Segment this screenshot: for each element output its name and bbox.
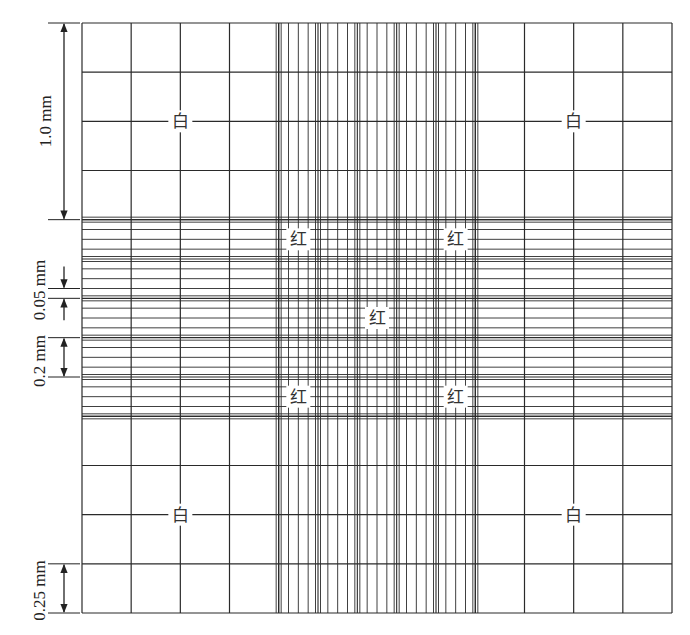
red-label-bottom-right: 红 bbox=[447, 387, 464, 407]
dimension-0.25mm-text: 0.25 mm bbox=[30, 560, 49, 620]
red-label-top-right: 红 bbox=[447, 229, 464, 249]
white-label-top-right: 白 bbox=[565, 111, 582, 131]
white-label-bottom-right: 白 bbox=[565, 505, 582, 525]
dimension-0.05mm-text: 0.05 mm bbox=[30, 260, 49, 320]
dimension-0.2mm-text: 0.2 mm bbox=[30, 335, 49, 387]
dimension-1mm-text: 1.0 mm bbox=[36, 95, 55, 147]
white-label-bottom-left: 白 bbox=[172, 505, 189, 525]
white-label-top-left: 白 bbox=[172, 111, 189, 131]
red-label-center: 红 bbox=[369, 308, 386, 328]
dimension-annotations: 1.0 mm0.05 mm0.2 mm0.25 mm bbox=[30, 23, 80, 621]
red-label-bottom-left: 红 bbox=[290, 387, 307, 407]
hemocytometer-diagram: 白白白白红红红红红 1.0 mm0.05 mm0.2 mm0.25 mm bbox=[0, 0, 690, 635]
red-label-top-left: 红 bbox=[290, 229, 307, 249]
